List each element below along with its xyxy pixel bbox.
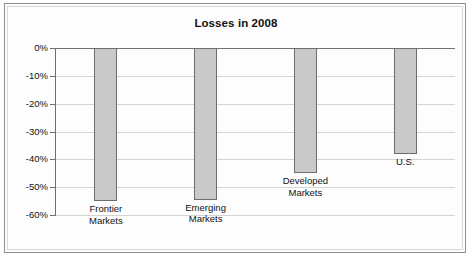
bar-category-label: EmergingMarkets [161,202,251,225]
y-tick-label--40: -40% [8,154,48,164]
plot-area [56,48,455,215]
y-tick--40 [50,159,55,160]
y-tick-label--30: -30% [8,127,48,137]
y-tick--10 [50,76,55,77]
bar [94,48,117,201]
y-tick--20 [50,104,55,105]
bar [294,48,317,173]
bar-label-line-1: Emerging [161,202,251,214]
y-tick--60 [50,215,55,216]
chart-figure: Losses in 2008 0%-10%-20%-30%-40%-50%-60… [0,0,472,258]
bar-label-line-2: Markets [61,215,151,227]
y-tick-0 [50,48,55,49]
y-tick-label--20: -20% [8,99,48,109]
y-tick--50 [50,187,55,188]
bar-label-line-2: Markets [260,187,350,199]
y-tick-label--50: -50% [8,182,48,192]
bar-label-line-1: Developed [260,175,350,187]
bar [394,48,417,154]
bar [194,48,217,200]
y-tick-label--10: -10% [8,71,48,81]
bar-category-label: DevelopedMarkets [260,175,350,198]
y-tick--30 [50,132,55,133]
bar-label-line-2: Markets [161,213,251,225]
y-tick-label-0: 0% [8,43,48,53]
bar-label-line-1: U.S. [360,156,450,168]
bar-category-label: FrontierMarkets [61,203,151,226]
y-tick-label--60: -60% [8,210,48,220]
chart-title: Losses in 2008 [0,17,472,29]
bar-category-label: U.S. [360,156,450,168]
bar-label-line-1: Frontier [61,203,151,215]
